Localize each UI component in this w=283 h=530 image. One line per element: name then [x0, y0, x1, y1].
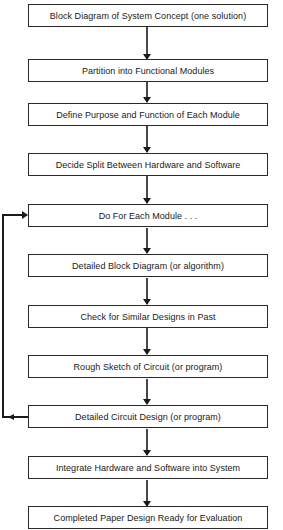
loop-back-arrow	[3, 215, 28, 417]
step-block-diagram: Block Diagram of System Concept (one sol…	[28, 4, 268, 27]
step-define-purpose: Define Purpose and Function of Each Modu…	[28, 103, 268, 126]
step-label: Detailed Circuit Design (or program)	[75, 412, 221, 422]
loop-arrowhead-left	[8, 414, 14, 420]
step-rough-sketch: Rough Sketch of Circuit (or program)	[28, 355, 268, 378]
step-completed: Completed Paper Design Ready for Evaluat…	[28, 506, 268, 529]
step-integrate: Integrate Hardware and Software into Sys…	[28, 456, 268, 479]
step-label: Rough Sketch of Circuit (or program)	[74, 362, 223, 372]
step-label: Detailed Block Diagram (or algorithm)	[72, 261, 224, 271]
step-detailed-circuit: Detailed Circuit Design (or program)	[28, 405, 268, 428]
step-label: Check for Similar Designs in Past	[80, 312, 215, 322]
step-label: Define Purpose and Function of Each Modu…	[56, 110, 240, 120]
step-label: Decide Split Between Hardware and Softwa…	[56, 160, 241, 170]
step-decide-split: Decide Split Between Hardware and Softwa…	[28, 153, 268, 176]
step-label: Integrate Hardware and Software into Sys…	[56, 463, 240, 473]
step-label: Block Diagram of System Concept (one sol…	[50, 11, 246, 21]
step-detailed-block: Detailed Block Diagram (or algorithm)	[28, 254, 268, 277]
step-do-for-each: Do For Each Module . . .	[28, 204, 268, 227]
step-label: Partition into Functional Modules	[82, 66, 214, 76]
step-label: Completed Paper Design Ready for Evaluat…	[54, 513, 243, 523]
step-label: Do For Each Module . . .	[99, 211, 198, 221]
step-partition: Partition into Functional Modules	[28, 59, 268, 82]
step-check-similar: Check for Similar Designs in Past	[28, 305, 268, 328]
